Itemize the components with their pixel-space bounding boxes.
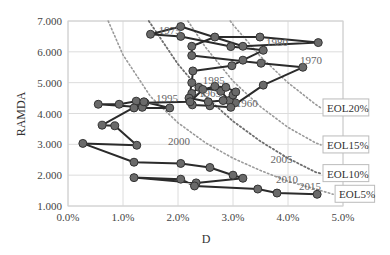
point-label: 1980 — [266, 36, 289, 48]
y-axis-title: RAMDA — [14, 91, 28, 136]
y-tick-label: 2.000 — [37, 169, 62, 181]
data-point — [211, 33, 219, 41]
chart: 1.0002.0003.0004.0005.0006.0007.000 0.0%… — [0, 0, 390, 255]
x-tick-label: 5.0% — [332, 211, 355, 223]
point-label: 2000 — [168, 135, 191, 147]
x-tick-label: 0.0% — [57, 211, 80, 223]
data-point — [256, 33, 264, 41]
x-tick-label: 4.0% — [277, 211, 300, 223]
data-point — [188, 52, 196, 60]
data-point — [140, 98, 148, 106]
data-point — [133, 141, 141, 149]
y-tick-label: 3.000 — [37, 138, 62, 150]
x-axis-title: D — [202, 232, 211, 246]
data-point — [115, 100, 123, 108]
point-label: 2010 — [276, 173, 299, 185]
data-point — [94, 100, 102, 108]
x-tick-label: 1.0% — [112, 211, 135, 223]
data-point — [130, 158, 138, 166]
y-tick-labels: 1.0002.0003.0004.0005.0006.0007.000 — [37, 15, 62, 212]
data-point — [204, 98, 212, 106]
data-point — [191, 182, 199, 190]
x-tick-labels: 0.0%1.0%2.0%3.0%4.0%5.0% — [57, 211, 355, 223]
data-point — [254, 185, 262, 193]
data-point — [177, 159, 185, 167]
data-point — [314, 39, 322, 47]
grid — [68, 21, 343, 206]
point-label: 2015 — [299, 180, 322, 192]
data-point — [227, 103, 235, 111]
data-point — [206, 163, 214, 171]
data-point — [229, 171, 237, 179]
data-point — [239, 56, 247, 64]
data-point — [147, 30, 155, 38]
curve-label-text: EOL20% — [327, 102, 369, 114]
data-point — [188, 42, 196, 50]
y-tick-label: 4.000 — [37, 108, 62, 120]
data-point — [259, 81, 267, 89]
data-point — [79, 139, 87, 147]
y-tick-label: 6.000 — [37, 46, 62, 58]
data-point — [239, 42, 247, 50]
point-label: 1960 — [236, 97, 259, 109]
point-label: 1970 — [300, 54, 323, 66]
data-point — [130, 104, 138, 112]
curve-label-text: EOL10% — [327, 168, 369, 180]
data-point — [228, 62, 236, 70]
data-point — [189, 67, 197, 75]
data-point — [239, 174, 247, 182]
data-point — [98, 121, 106, 129]
point-label: 1985 — [203, 74, 226, 86]
curve-label-eol15pct: EOL15% — [323, 136, 369, 153]
curve-label-text: EOL5% — [339, 188, 375, 200]
data-point — [186, 98, 194, 106]
data-point — [177, 175, 185, 183]
x-tick-label: 3.0% — [222, 211, 245, 223]
point-label: 1965 — [199, 87, 222, 99]
point-label: 1995 — [156, 92, 179, 104]
data-point — [273, 189, 281, 197]
y-tick-label: 7.000 — [37, 15, 62, 27]
data-point — [257, 59, 265, 67]
data-point — [227, 43, 235, 51]
x-tick-label: 2.0% — [167, 211, 190, 223]
curve-labels: EOL5%EOL10%EOL15%EOL20% — [323, 99, 375, 202]
data-point — [111, 122, 119, 130]
curve-label-eol10pct: EOL10% — [323, 165, 369, 182]
data-point — [188, 79, 196, 87]
curve-label-eol20pct: EOL20% — [323, 99, 369, 116]
curve-label-text: EOL15% — [327, 139, 369, 151]
point-label: 1975 — [159, 24, 182, 36]
data-point — [130, 174, 138, 182]
curve-label-eol5pct: EOL5% — [335, 185, 375, 202]
point-label: 2005 — [270, 153, 293, 165]
data-point — [166, 104, 174, 112]
y-tick-label: 5.000 — [37, 77, 62, 89]
data-point — [232, 88, 240, 96]
